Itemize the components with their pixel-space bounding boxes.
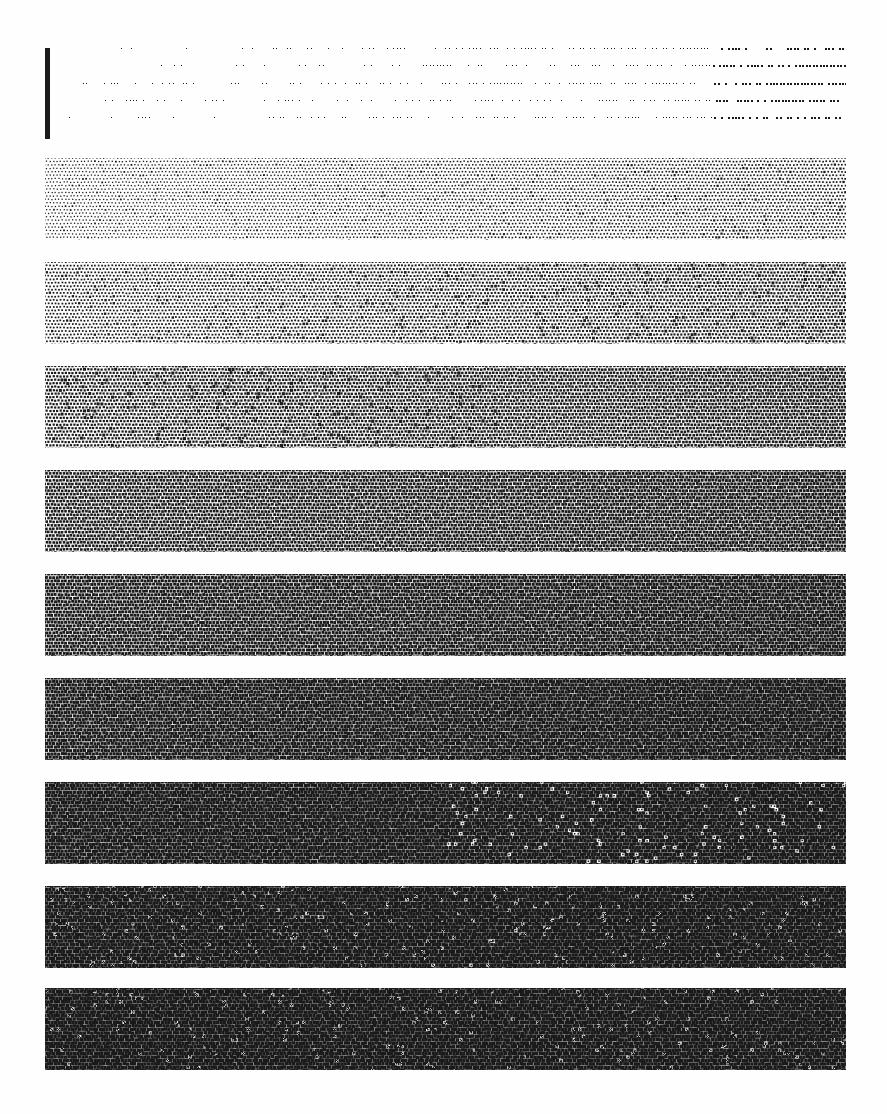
halftone-band (45, 782, 846, 864)
halftone-band (45, 262, 846, 344)
halftone-band-canvas (45, 48, 846, 130)
halftone-band (45, 988, 846, 1070)
halftone-band (45, 48, 846, 130)
halftone-band (45, 470, 846, 552)
halftone-band-canvas (45, 262, 846, 344)
halftone-test-sheet (0, 0, 887, 1114)
halftone-band-canvas (45, 574, 846, 656)
registration-bar (45, 48, 50, 139)
halftone-band-canvas (45, 988, 846, 1070)
halftone-band (45, 158, 846, 240)
halftone-band-canvas (45, 678, 846, 760)
halftone-band-canvas (45, 470, 846, 552)
halftone-band-canvas (45, 886, 846, 968)
halftone-band (45, 574, 846, 656)
halftone-band-canvas (45, 158, 846, 240)
halftone-band-canvas (45, 366, 846, 448)
halftone-band (45, 366, 846, 448)
halftone-band (45, 678, 846, 760)
halftone-band-canvas (45, 782, 846, 864)
halftone-band (45, 886, 846, 968)
